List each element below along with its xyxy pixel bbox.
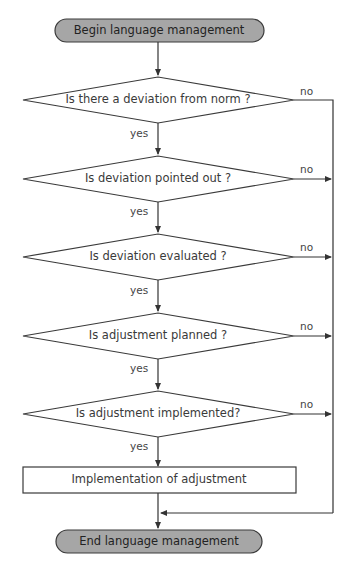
start-label: Begin language management bbox=[74, 23, 245, 37]
process-label: Implementation of adjustment bbox=[71, 472, 246, 486]
yes-label-2: yes bbox=[130, 205, 148, 217]
decision-label-1: Is there a deviation from norm ? bbox=[65, 92, 250, 106]
decision-label-3: Is deviation evaluated ? bbox=[89, 249, 226, 263]
end-label: End language management bbox=[79, 534, 239, 548]
no-label-5: no bbox=[300, 398, 313, 410]
no-label-2: no bbox=[300, 163, 313, 175]
no-branch-1 bbox=[294, 100, 333, 513]
yes-label-3: yes bbox=[130, 284, 148, 296]
no-label-1: no bbox=[300, 85, 313, 97]
decision-label-4: Is adjustment planned ? bbox=[89, 328, 227, 342]
no-label-3: no bbox=[300, 241, 313, 253]
yes-label-4: yes bbox=[130, 362, 148, 374]
yes-label-5: yes bbox=[130, 440, 148, 452]
no-label-4: no bbox=[300, 320, 313, 332]
decision-label-2: Is deviation pointed out ? bbox=[85, 171, 231, 185]
decision-label-5: Is adjustment implemented? bbox=[76, 406, 241, 420]
yes-label-1: yes bbox=[130, 127, 148, 139]
